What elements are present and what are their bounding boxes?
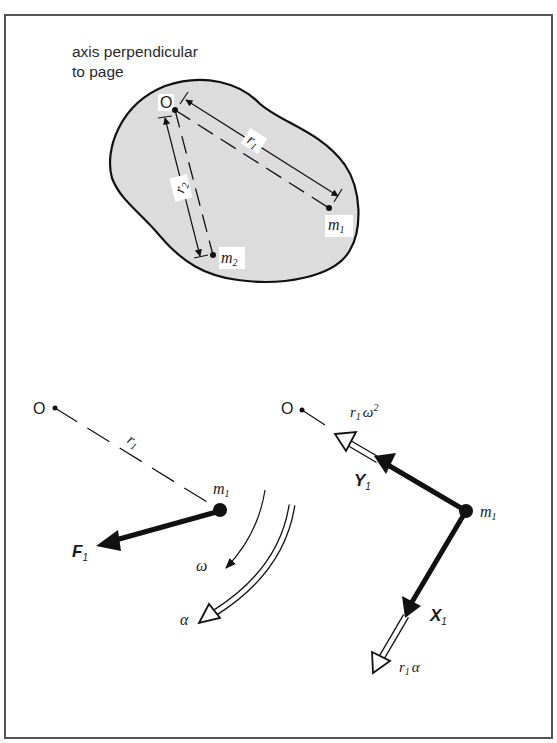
bl-r1-label: r1	[124, 431, 143, 452]
force-f1-arrow	[112, 511, 220, 541]
br-origin-label: O	[281, 400, 293, 417]
force-f1-label: F1	[72, 542, 88, 563]
top-panel: O r1 r2 m1 m2	[110, 80, 358, 282]
force-x1-label: X1	[429, 606, 447, 627]
force-y1-label: Y1	[354, 471, 371, 492]
bl-origin-label: O	[33, 400, 45, 417]
mass-point-m1	[326, 205, 332, 211]
rigid-body-diagram: O r1 r2 m1 m2 O r1 m1 F1	[0, 0, 557, 743]
alpha-label: α	[180, 611, 189, 628]
br-m1-label: m1	[480, 503, 497, 522]
origin-label: O	[160, 94, 172, 111]
bl-radius-line	[55, 408, 220, 510]
force-y1-arrowhead	[374, 453, 396, 474]
bl-m1-label: m1	[213, 480, 230, 499]
bottom-right-panel: O r1ω2 Y1 r1α X1 m1	[281, 400, 497, 677]
alpha-arc-arrow	[216, 505, 292, 612]
force-f1-arrowhead	[96, 530, 121, 551]
bottom-left-panel: O r1 m1 F1 ω α	[33, 400, 292, 628]
br-radius-stub	[302, 410, 325, 425]
mass-point-m2	[210, 252, 216, 258]
force-y1-arrow	[388, 465, 466, 511]
omega-label: ω	[196, 557, 207, 574]
omega-arc-arrow	[226, 490, 265, 568]
tangential-accel-label: r1α	[399, 659, 421, 677]
bl-mass-point	[213, 503, 227, 517]
centripetal-accel-label: r1ω2	[350, 402, 378, 422]
force-x1-arrow	[412, 511, 466, 602]
origin-point	[172, 107, 178, 113]
alpha-arrowhead	[199, 604, 220, 623]
br-mass-point	[459, 504, 473, 518]
